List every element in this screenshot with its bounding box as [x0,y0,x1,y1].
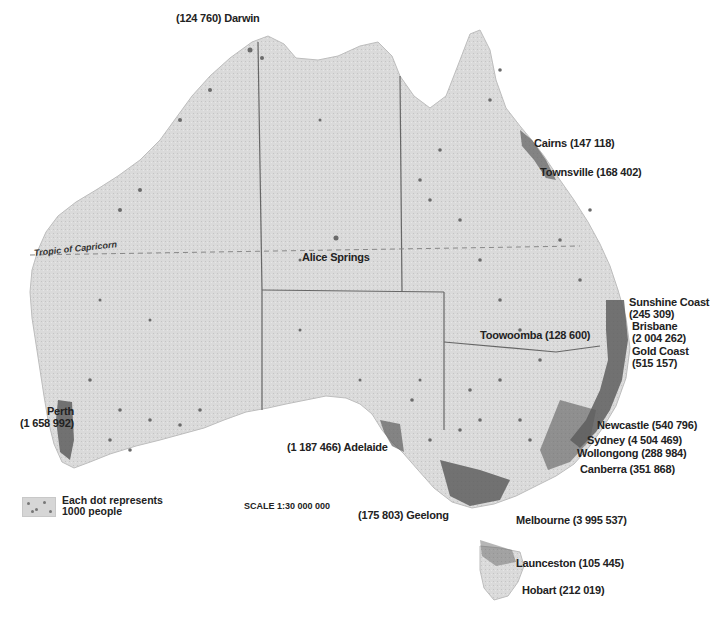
legend-line-2: 1000 people [62,506,163,517]
city-population: (515 157) [632,357,689,369]
australia-population-map [0,0,724,619]
city-name: Perth [20,405,74,417]
city-label-sydney: Sydney (4 504 469) [587,434,682,446]
map-scale: SCALE 1:30 000 000 [244,501,330,511]
mainland-australia [30,30,630,508]
legend-text: Each dot represents 1000 people [62,495,163,517]
city-label-alice-springs: Alice Springs [302,251,370,263]
city-label-adelaide: (1 187 466) Adelaide [287,441,388,453]
city-population: (245 309) [629,308,709,320]
city-label-townsville: Townsville (168 402) [540,166,642,178]
city-name: Gold Coast [632,345,689,357]
city-label-toowoomba: Toowoomba (128 600) [480,329,590,341]
city-label-hobart: Hobart (212 019) [522,584,604,596]
city-label-sunshine-coast: Sunshine Coast (245 309) [629,296,709,320]
city-label-canberra: Canberra (351 868) [580,463,675,475]
city-label-cairns: Cairns (147 118) [534,137,615,149]
legend-swatch [22,497,56,517]
city-label-launceston: Launceston (105 445) [516,557,624,569]
city-population: (2 004 262) [632,332,686,344]
city-label-darwin: (124 760) Darwin [176,12,260,24]
city-label-melbourne: Melbourne (3 995 537) [516,514,627,526]
city-label-brisbane: Brisbane (2 004 262) [632,320,686,344]
city-label-gold-coast: Gold Coast (515 157) [632,345,689,369]
city-name: Sunshine Coast [629,296,709,308]
city-label-newcastle: Newcastle (540 796) [597,419,697,431]
city-label-perth: Perth (1 658 992) [20,405,74,429]
city-label-geelong: (175 803) Geelong [358,509,449,521]
city-name: Brisbane [632,320,686,332]
city-label-wollongong: Wollongong (288 984) [577,447,686,459]
city-population: (1 658 992) [20,417,74,429]
